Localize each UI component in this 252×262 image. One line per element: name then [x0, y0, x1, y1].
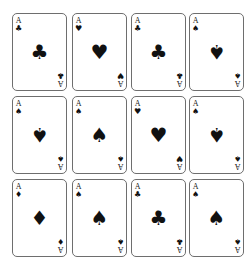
spade-icon: ♠: [57, 154, 64, 162]
spade-icon: ♠: [192, 191, 199, 199]
spade-icon: ♠: [192, 108, 199, 116]
spade-icon: ♠: [192, 25, 199, 33]
card-corner-top-left: A♠: [15, 100, 22, 116]
card-rank: A: [58, 245, 64, 253]
card-rank: A: [177, 162, 183, 170]
club-icon: ♣: [134, 25, 141, 33]
card-corner-top-left: A♠: [192, 17, 199, 33]
card-corner-top-left: A♠: [75, 100, 82, 116]
card-corner-bottom-right: A♠: [234, 71, 241, 87]
card-corner-top-left: A♣: [15, 17, 22, 33]
card-ace-of-spade[interactable]: A♠♠A♠: [72, 96, 127, 174]
card-rank: A: [118, 245, 124, 253]
club-icon: ♣: [176, 237, 183, 245]
card-corner-top-left: A♣: [134, 17, 141, 33]
card-corner-bottom-right: A♣: [176, 237, 183, 253]
card-rank: A: [118, 162, 124, 170]
card-ace-of-spade[interactable]: A♠♠A♠: [189, 179, 244, 257]
card-ace-of-club[interactable]: A♣♣A♣: [131, 179, 186, 257]
card-corner-bottom-right: A♣: [57, 71, 64, 87]
heart-icon: ♥: [73, 42, 126, 62]
card-ace-of-club[interactable]: A♣♣A♣: [12, 13, 67, 91]
club-icon: ♣: [134, 191, 141, 199]
diamond-icon: ♦: [57, 237, 64, 245]
diamond-icon: ♦: [15, 191, 22, 199]
club-icon: ♣: [13, 42, 66, 62]
card-corner-bottom-right: A♠: [234, 237, 241, 253]
club-icon: ♣: [57, 71, 64, 79]
spade-icon: ♠: [190, 125, 243, 145]
card-ace-of-heart[interactable]: A♥♥A♥: [72, 13, 127, 91]
card-rank: A: [235, 79, 241, 87]
card-ace-of-spade[interactable]: A♠♠A♠: [189, 13, 244, 91]
heart-icon: ♥: [117, 71, 124, 79]
heart-icon: ♥: [176, 154, 183, 162]
club-icon: ♣: [132, 42, 185, 62]
club-icon: ♣: [15, 25, 22, 33]
card-rank: A: [118, 79, 124, 87]
card-corner-bottom-right: A♦: [57, 237, 64, 253]
spade-icon: ♠: [73, 125, 126, 145]
card-corner-top-left: A♥: [75, 17, 82, 33]
card-rank: A: [177, 245, 183, 253]
card-corner-top-left: A♥: [134, 100, 141, 116]
card-corner-bottom-right: A♠: [234, 154, 241, 170]
card-ace-of-diamond[interactable]: A♦♦A♦: [12, 179, 67, 257]
card-corner-top-left: A♣: [134, 183, 141, 199]
spade-icon: ♠: [117, 154, 124, 162]
card-rank: A: [58, 162, 64, 170]
card-ace-of-spade[interactable]: A♠♠A♠: [72, 179, 127, 257]
spade-icon: ♠: [75, 108, 82, 116]
card-ace-of-spade[interactable]: A♠♠A♠: [189, 96, 244, 174]
spade-icon: ♠: [13, 125, 66, 145]
heart-icon: ♥: [134, 108, 141, 116]
club-icon: ♣: [132, 208, 185, 228]
card-corner-bottom-right: A♠: [117, 154, 124, 170]
spade-icon: ♠: [234, 237, 241, 245]
card-corner-top-left: A♠: [75, 183, 82, 199]
card-ace-of-spade[interactable]: A♠♠A♠: [12, 96, 67, 174]
spade-icon: ♠: [190, 208, 243, 228]
heart-icon: ♥: [75, 25, 82, 33]
spade-icon: ♠: [190, 42, 243, 62]
diamond-icon: ♦: [13, 208, 66, 228]
card-rank: A: [235, 162, 241, 170]
card-ace-of-club[interactable]: A♣♣A♣: [131, 13, 186, 91]
card-corner-bottom-right: A♠: [57, 154, 64, 170]
card-corner-bottom-right: A♠: [117, 237, 124, 253]
spade-icon: ♠: [234, 71, 241, 79]
card-ace-of-heart[interactable]: A♥♥A♥: [131, 96, 186, 174]
card-rank: A: [235, 245, 241, 253]
card-corner-top-left: A♦: [15, 183, 22, 199]
spade-icon: ♠: [73, 208, 126, 228]
card-corner-bottom-right: A♥: [176, 154, 183, 170]
heart-icon: ♥: [132, 125, 185, 145]
card-rank: A: [58, 79, 64, 87]
spade-icon: ♠: [234, 154, 241, 162]
spade-icon: ♠: [15, 108, 22, 116]
card-corner-bottom-right: A♥: [117, 71, 124, 87]
card-corner-top-left: A♠: [192, 183, 199, 199]
spade-icon: ♠: [117, 237, 124, 245]
card-corner-bottom-right: A♣: [176, 71, 183, 87]
spade-icon: ♠: [75, 191, 82, 199]
club-icon: ♣: [176, 71, 183, 79]
card-rank: A: [177, 79, 183, 87]
card-corner-top-left: A♠: [192, 100, 199, 116]
